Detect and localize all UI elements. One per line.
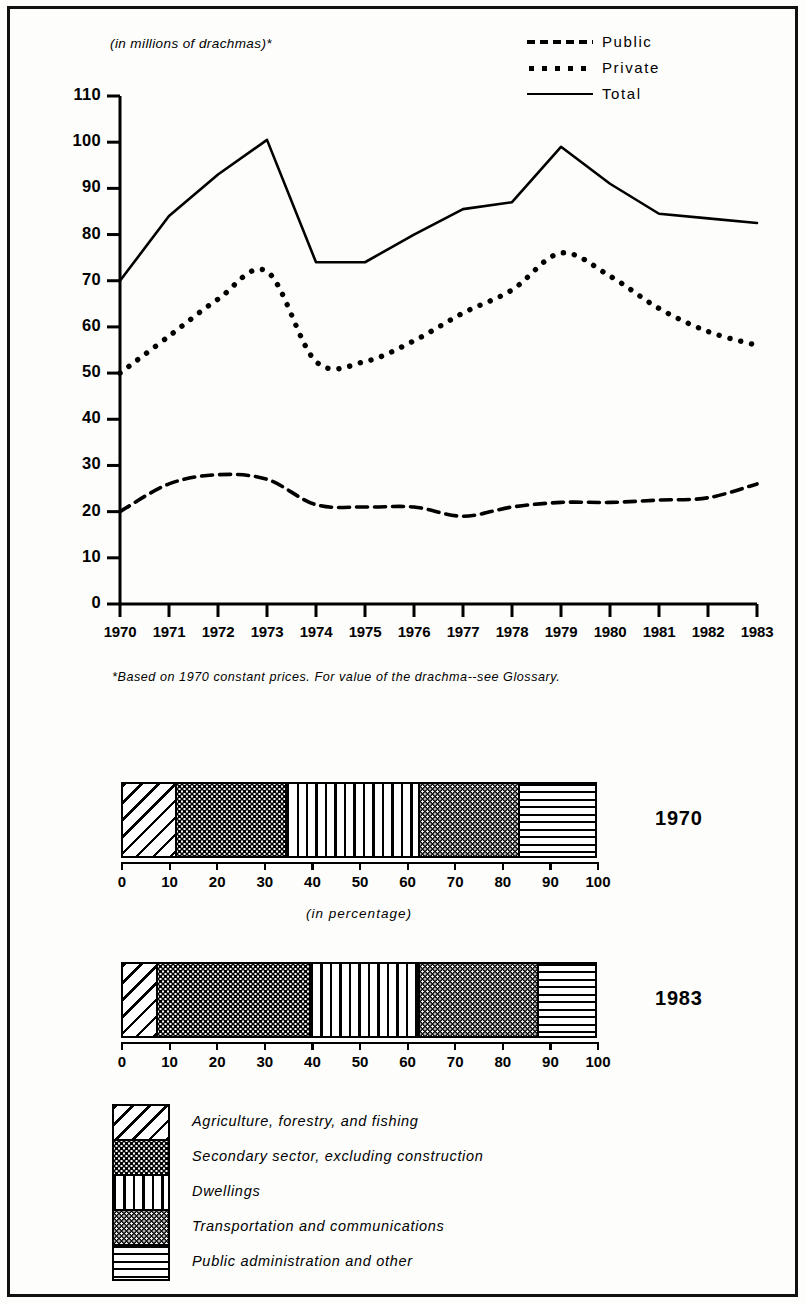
y-axis-tick-90: 90 [59,177,101,196]
y-axis-tick-70: 70 [59,270,101,289]
bar-tick-1970-60 [407,862,409,870]
bar-tick-label-1983-90: 90 [542,1053,559,1070]
bar-tick-1983-30 [264,1042,266,1050]
y-axis-tick-50: 50 [59,362,101,381]
legend-text-3: Dwellings [192,1183,260,1199]
bar-tick-label-1983-50: 50 [352,1053,369,1070]
bar-tick-label-1983-60: 60 [399,1053,416,1070]
legend-swatch-3 [112,1174,170,1211]
x-axis-tick-1972: 1972 [202,623,235,640]
legend-text-2: Secondary sector, excluding construction [192,1148,484,1164]
series-line-private [120,253,757,373]
bar-tick-1983-50 [359,1042,361,1050]
bar-tick-label-1970-50: 50 [352,873,369,890]
x-axis-tick-1978: 1978 [496,623,529,640]
legend-text-1: Agriculture, forestry, and fishing [192,1113,419,1129]
bar-tick-label-1983-0: 0 [118,1053,126,1070]
line-plot-canvas [0,0,805,660]
y-axis-tick-20: 20 [59,501,101,520]
y-axis-tick-100: 100 [59,131,101,150]
bar-tick-1970-70 [454,862,456,870]
series-line-public [120,474,757,516]
x-axis-tick-1971: 1971 [153,623,186,640]
bar-tick-1970-80 [502,862,504,870]
percentage-caption: (in percentage) [306,906,412,921]
bar-tick-label-1983-10: 10 [161,1053,178,1070]
x-axis-tick-1977: 1977 [447,623,480,640]
legend-swatch-2 [112,1139,170,1176]
x-axis-tick-1974: 1974 [300,623,333,640]
bar-tick-1970-0 [121,862,123,870]
bar-segment-1970-4 [418,784,518,856]
bar-segment-1983-4 [418,964,537,1036]
bar-tick-1970-50 [359,862,361,870]
legend-swatch-5 [112,1244,170,1281]
y-axis-tick-110: 110 [59,85,101,104]
y-axis-tick-30: 30 [59,454,101,473]
bar-segment-1983-5 [537,964,597,1036]
bar-tick-label-1983-80: 80 [494,1053,511,1070]
chart-page: (in millions of drachmas)* Public Privat… [0,0,805,1304]
bar-tick-label-1983-70: 70 [447,1053,464,1070]
legend-text-5: Public administration and other [192,1253,413,1269]
bar-tick-1983-60 [407,1042,409,1050]
x-axis-tick-1981: 1981 [643,623,676,640]
bar-segment-1970-3 [285,784,418,856]
bar-tick-1970-90 [549,862,551,870]
bar-year-label-1970: 1970 [655,807,703,830]
y-axis-tick-60: 60 [59,316,101,335]
bar-tick-label-1970-80: 80 [494,873,511,890]
bar-tick-1983-20 [216,1042,218,1050]
line-chart: (in millions of drachmas)* Public Privat… [0,0,805,700]
bar-segment-1983-3 [309,964,418,1036]
bar-tick-label-1970-100: 100 [585,873,610,890]
bar-tick-1970-100 [597,862,599,870]
bar-segment-1983-2 [156,964,308,1036]
series-line-total [120,140,757,281]
bar-tick-label-1970-10: 10 [161,873,178,890]
bar-tick-1970-20 [216,862,218,870]
stacked-bar-1983 [121,962,597,1038]
legend-swatch-4 [112,1209,170,1246]
bar-tick-label-1970-70: 70 [447,873,464,890]
bar-segment-1970-1 [123,784,175,856]
y-axis-tick-0: 0 [59,593,101,612]
bar-tick-1983-10 [169,1042,171,1050]
y-axis-tick-80: 80 [59,224,101,243]
bar-tick-1970-10 [169,862,171,870]
bar-tick-label-1970-90: 90 [542,873,559,890]
bar-tick-1983-40 [311,1042,313,1050]
bar-tick-1983-100 [597,1042,599,1050]
x-axis-tick-1970: 1970 [104,623,137,640]
bar-segment-1983-1 [123,964,156,1036]
bar-tick-label-1970-20: 20 [209,873,226,890]
bar-tick-1983-90 [549,1042,551,1050]
x-axis-tick-1975: 1975 [349,623,382,640]
legend-text-4: Transportation and communications [192,1218,445,1234]
y-axis-tick-40: 40 [59,408,101,427]
bar-tick-1983-70 [454,1042,456,1050]
bar-segment-1970-5 [518,784,597,856]
x-axis-tick-1980: 1980 [594,623,627,640]
bar-tick-1970-30 [264,862,266,870]
bar-tick-label-1983-20: 20 [209,1053,226,1070]
bar-tick-1983-0 [121,1042,123,1050]
x-axis-tick-1979: 1979 [545,623,578,640]
bar-year-label-1983: 1983 [655,987,703,1010]
bar-tick-label-1983-40: 40 [304,1053,321,1070]
bar-tick-1970-40 [311,862,313,870]
x-axis-tick-1973: 1973 [251,623,284,640]
bar-tick-label-1970-0: 0 [118,873,126,890]
legend-swatch-1 [112,1104,170,1141]
bar-tick-label-1983-30: 30 [256,1053,273,1070]
x-axis-tick-1976: 1976 [398,623,431,640]
bar-tick-1983-80 [502,1042,504,1050]
chart-footnote: *Based on 1970 constant prices. For valu… [112,670,560,684]
x-axis-tick-1983: 1983 [741,623,774,640]
y-axis-tick-10: 10 [59,547,101,566]
bar-tick-label-1970-40: 40 [304,873,321,890]
bar-segment-1970-2 [175,784,284,856]
x-axis-tick-1982: 1982 [692,623,725,640]
bar-tick-label-1970-30: 30 [256,873,273,890]
bar-tick-label-1983-100: 100 [585,1053,610,1070]
